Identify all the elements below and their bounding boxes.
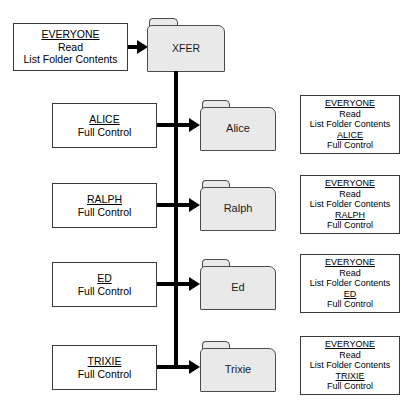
permission-box-assigned-trixie: TRIXIE Full Control bbox=[52, 345, 157, 390]
permission-line: EVERYONE bbox=[325, 98, 375, 109]
permission-line: List Folder Contents bbox=[310, 119, 391, 130]
permission-line: EVERYONE bbox=[41, 28, 99, 40]
permission-line: Full Control bbox=[78, 126, 132, 138]
permission-line: Full Control bbox=[78, 206, 132, 218]
permission-line: TRIXIE bbox=[335, 371, 364, 382]
folder-body: XFER bbox=[147, 25, 225, 72]
folder-ed[interactable]: Ed bbox=[200, 259, 276, 310]
permission-box-root: EVERYONE Read List Folder Contents bbox=[13, 23, 128, 71]
permission-box-assigned-ralph: RALPH Full Control bbox=[52, 183, 157, 228]
permission-line: Read bbox=[339, 350, 361, 361]
permission-line: EVERYONE bbox=[325, 257, 375, 268]
permission-line: Full Control bbox=[78, 368, 132, 380]
permission-line: EVERYONE bbox=[325, 339, 375, 350]
arrowhead-ralph bbox=[189, 198, 200, 212]
permission-box-effective-ralph: EVERYONE Read List Folder Contents RALPH… bbox=[300, 175, 400, 234]
permission-line: List Folder Contents bbox=[310, 199, 391, 210]
folder-body: Trixie bbox=[200, 348, 276, 392]
folder-alice[interactable]: Alice bbox=[200, 100, 276, 151]
permission-line: List Folder Contents bbox=[310, 360, 391, 371]
folder-body: Ed bbox=[200, 266, 276, 310]
permission-box-effective-trixie: EVERYONE Read List Folder Contents TRIXI… bbox=[300, 336, 400, 395]
permission-line: ED bbox=[344, 289, 357, 300]
permission-line: List Folder Contents bbox=[24, 53, 118, 65]
permission-line: Full Control bbox=[327, 299, 373, 310]
permission-line: TRIXIE bbox=[88, 355, 122, 367]
folder-label: XFER bbox=[172, 42, 200, 54]
permission-line: RALPH bbox=[87, 193, 122, 205]
permission-line: ALICE bbox=[337, 130, 363, 141]
folder-label: Trixie bbox=[225, 363, 251, 375]
folder-ralph[interactable]: Ralph bbox=[200, 180, 276, 231]
permission-line: Read bbox=[339, 268, 361, 279]
arrowhead-trixie bbox=[189, 360, 200, 374]
permission-box-effective-ed: EVERYONE Read List Folder Contents ED Fu… bbox=[300, 254, 400, 313]
permission-line: Full Control bbox=[327, 140, 373, 151]
permission-line: EVERYONE bbox=[325, 178, 375, 189]
permission-line: List Folder Contents bbox=[310, 278, 391, 289]
arrowhead-alice bbox=[189, 118, 200, 132]
permission-line: RALPH bbox=[335, 210, 365, 221]
permission-box-assigned-ed: ED Full Control bbox=[52, 262, 157, 307]
permission-line: Full Control bbox=[78, 285, 132, 297]
connector-trunk bbox=[174, 71, 178, 368]
folder-label: Alice bbox=[226, 122, 250, 134]
permission-box-assigned-alice: ALICE Full Control bbox=[52, 103, 157, 148]
folder-body: Ralph bbox=[200, 187, 276, 231]
folder-body: Alice bbox=[200, 107, 276, 151]
diagram-canvas: EVERYONE Read List Folder Contents XFER … bbox=[0, 0, 412, 406]
folder-xfer[interactable]: XFER bbox=[147, 18, 225, 72]
permission-line: Full Control bbox=[327, 381, 373, 392]
arrowhead-ed bbox=[189, 277, 200, 291]
folder-trixie[interactable]: Trixie bbox=[200, 341, 276, 392]
permission-line: Read bbox=[58, 41, 83, 53]
permission-box-effective-alice: EVERYONE Read List Folder Contents ALICE… bbox=[300, 95, 400, 154]
folder-label: Ed bbox=[231, 281, 244, 293]
permission-line: ALICE bbox=[89, 113, 119, 125]
permission-line: Read bbox=[339, 189, 361, 200]
permission-line: Full Control bbox=[327, 220, 373, 231]
permission-line: ED bbox=[97, 272, 112, 284]
permission-line: Read bbox=[339, 109, 361, 120]
folder-label: Ralph bbox=[224, 202, 253, 214]
